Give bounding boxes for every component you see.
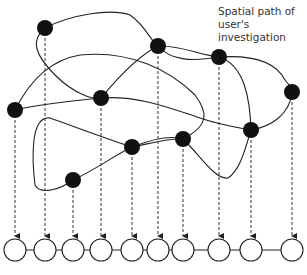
annotation-label: Spatial path of user's investigation — [218, 5, 307, 44]
timeline-node — [34, 239, 56, 261]
timeline-node — [281, 239, 303, 261]
timeline-node — [147, 239, 169, 261]
timeline-node — [121, 239, 143, 261]
timeline-node — [90, 239, 112, 261]
spatial-node — [243, 122, 259, 138]
spatial-node — [37, 20, 53, 36]
timeline-node — [4, 239, 26, 261]
spatial-node — [284, 84, 300, 100]
spatial-node — [150, 38, 166, 54]
timeline — [4, 239, 303, 261]
spatial-node — [65, 172, 81, 188]
timeline-node — [208, 239, 230, 261]
annotation-line-1: Spatial path of — [218, 5, 307, 18]
spatial-node — [124, 139, 140, 155]
timeline-node — [172, 239, 194, 261]
annotation-line-3: investigation — [218, 31, 307, 44]
spatial-node — [211, 49, 227, 65]
spatial-node — [7, 102, 23, 118]
timeline-node — [240, 239, 262, 261]
spatial-node — [93, 90, 109, 106]
annotation-line-2: user's — [218, 18, 307, 31]
timeline-node — [62, 239, 84, 261]
spatial-node — [175, 131, 191, 147]
